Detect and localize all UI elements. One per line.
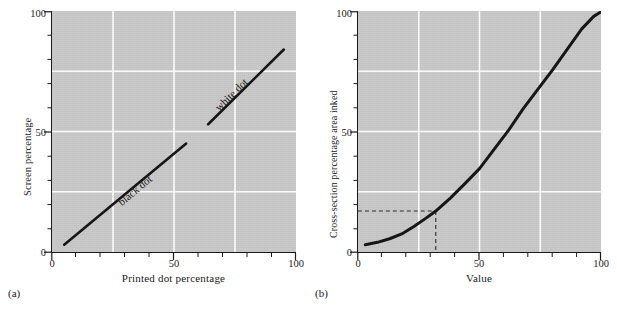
gridlines-a	[52, 11, 296, 252]
plot-area-a: black dot white dot	[51, 11, 296, 253]
y-tick-a-100: 100	[20, 8, 46, 19]
panel-a: black dot white dot	[0, 0, 308, 317]
y-tick-b-100: 100	[326, 8, 352, 19]
annotation-white-dot: white dot	[212, 76, 250, 113]
panel-b: 100 50 0 0 50 100 Cross-section percenta…	[309, 0, 617, 317]
panel-caption-b: (b)	[315, 287, 328, 299]
x-tick-a-0: 0	[49, 258, 54, 269]
series-dot-gain-curve	[365, 208, 435, 244]
x-tick-b-50: 50	[474, 258, 485, 269]
value-guide-b	[358, 211, 436, 252]
panel-caption-a: (a)	[8, 287, 20, 299]
y-tick-b-0: 0	[326, 247, 352, 258]
chart-a-svg: black dot white dot	[52, 11, 296, 252]
x-axis-label-a: Printed dot percentage	[51, 272, 296, 284]
x-tick-a-100: 100	[288, 258, 304, 269]
chart-b-svg	[358, 11, 601, 252]
y-axis-label-b: Cross-section percentage area inked	[328, 90, 339, 238]
annotation-black-dot: black dot	[115, 173, 154, 208]
figure: black dot white dot	[0, 0, 617, 317]
y-axis-label-a: Screen percentage	[22, 118, 33, 196]
gridlines-b	[358, 11, 601, 252]
x-tick-a-50: 50	[169, 258, 180, 269]
x-tick-b-0: 0	[355, 258, 360, 269]
y-tick-a-0: 0	[20, 247, 46, 258]
x-tick-b-100: 100	[593, 258, 609, 269]
series-dot-gain-line	[365, 12, 601, 245]
plot-area-b	[357, 11, 601, 253]
x-axis-label-b: Value	[357, 272, 601, 284]
